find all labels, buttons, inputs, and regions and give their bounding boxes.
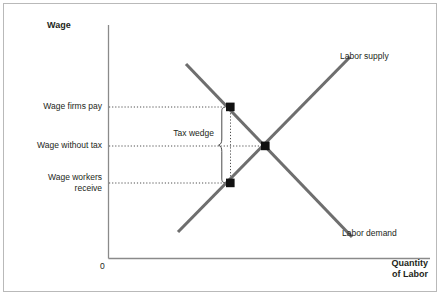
x-axis-title-line2: of Labor	[392, 269, 428, 279]
x-axis-title: Quantityof Labor	[330, 258, 428, 279]
tick-label-wage-workers-receive: Wage workersreceive	[10, 172, 102, 194]
x-axis-title-line1: Quantity	[391, 258, 428, 268]
figure-canvas: Wage 0 Quantityof Labor Wage firms pay W…	[0, 0, 442, 297]
tick-label-wage-workers-receive-line2: receive	[75, 183, 102, 193]
tax-wedge-brace	[219, 108, 225, 183]
tick-label-wage-without-tax: Wage without tax	[10, 140, 102, 151]
tick-label-wage-firms-pay: Wage firms pay	[10, 101, 102, 112]
marker-wage-firms-pay	[226, 103, 235, 112]
tick-label-wage-workers-receive-line1: Wage workers	[48, 172, 102, 182]
origin-label: 0	[100, 261, 105, 272]
marker-wage-workers-receive	[226, 179, 235, 188]
y-axis-title: Wage	[47, 20, 71, 31]
marker-equilibrium-wage-without-tax	[261, 142, 270, 151]
curve-label-labor-supply: Labor supply	[340, 51, 389, 62]
curve-label-labor-demand: Labor demand	[342, 228, 397, 239]
annotation-tax-wedge: Tax wedge	[142, 128, 214, 139]
labor-demand-curve	[186, 64, 352, 237]
